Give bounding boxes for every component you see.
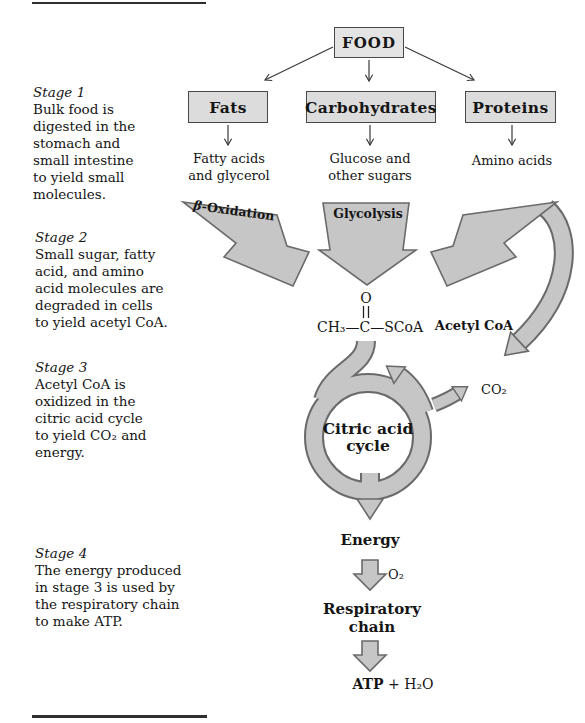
stage-3-text: Acetyl CoA is oxidized in the citric aci… <box>35 376 220 461</box>
stage-2-text: Small sugar, fatty acid, and amino acid … <box>35 246 220 331</box>
atp-text: ATP <box>353 676 384 692</box>
food-box: FOOD <box>334 27 404 58</box>
respiratory-chain-label: Respiratory chain <box>312 600 432 636</box>
food-to-proteins-arrow <box>405 47 474 80</box>
respiratory-to-atp-arrow <box>354 641 386 671</box>
fats-box: Fats <box>188 91 268 123</box>
glycolysis-label: Glycolysis <box>316 206 420 221</box>
atp-water-label: ATP + H₂O <box>338 676 448 692</box>
stage-4-label: Stage 4 <box>35 545 220 562</box>
proteins-degradation-arrow <box>431 202 557 286</box>
energy-to-respiratory-arrow <box>354 560 386 590</box>
stage-3-label: Stage 3 <box>35 359 220 376</box>
co2-label: CO₂ <box>481 382 525 397</box>
fats-products: Fatty acids and glycerol <box>169 150 289 184</box>
stage-3-block: Stage 3 Acetyl CoA is oxidized in the ci… <box>35 359 220 461</box>
acetyl-oxygen-atom: O <box>336 290 396 306</box>
energy-label: Energy <box>320 531 420 549</box>
o2-label: O₂ <box>388 567 428 582</box>
metabolism-diagram: Stage 1 Bulk food is digested in the sto… <box>0 0 585 723</box>
double-bond <box>364 306 369 318</box>
citric-acid-cycle-label: Citric acid cycle <box>318 420 418 454</box>
stage-4-text: The energy produced in stage 3 is used b… <box>35 562 220 630</box>
proteins-products: Amino acids <box>452 152 572 169</box>
carbohydrates-products: Glucose and other sugars <box>310 150 430 184</box>
stage-2-label: Stage 2 <box>35 229 220 246</box>
acetyl-formula: CH₃—C—SCoA <box>308 319 432 335</box>
carbohydrates-box: Carbohydrates <box>306 91 436 123</box>
food-to-fats-arrow <box>265 47 333 80</box>
water-text: + H₂O <box>384 676 434 692</box>
acetyl-coa-label: Acetyl CoA <box>424 318 524 333</box>
stage-4-block: Stage 4 The energy produced in stage 3 i… <box>35 545 220 630</box>
proteins-box: Proteins <box>465 91 556 123</box>
stage-2-block: Stage 2 Small sugar, fatty acid, and ami… <box>35 229 220 331</box>
